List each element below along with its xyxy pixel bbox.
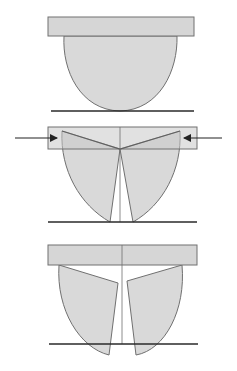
stage-1-intact: [48, 17, 194, 111]
diagram-svg: [0, 0, 237, 371]
stage3-right-half: [127, 265, 182, 355]
diagram-canvas: Stage 1 - intact body Stage 2 - lateral …: [0, 0, 237, 371]
stage3-left-half: [59, 265, 118, 355]
stage3-bar: [48, 245, 197, 265]
stage-2-compressed: [15, 127, 222, 222]
stage-3-separated: [48, 245, 198, 355]
stage2-bar: [48, 127, 197, 149]
stage1-body: [64, 36, 177, 111]
stage1-bar: [48, 17, 194, 36]
